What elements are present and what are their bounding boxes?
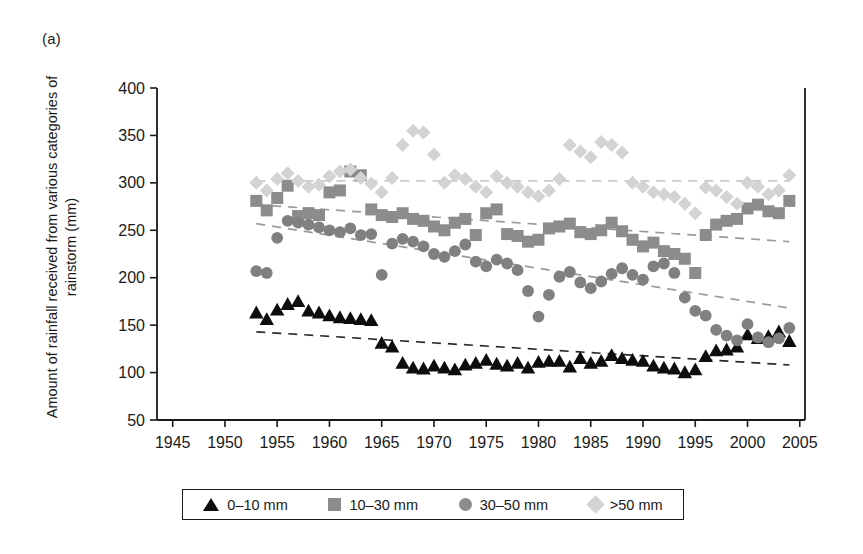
square-marker bbox=[459, 213, 471, 225]
square-marker bbox=[532, 234, 544, 246]
circle-marker bbox=[522, 285, 534, 297]
circle-marker bbox=[261, 267, 273, 279]
circle-marker bbox=[303, 219, 315, 231]
triangle-marker bbox=[500, 359, 514, 372]
circle-marker bbox=[376, 269, 388, 281]
legend-entry-2[interactable]: 30–50 mm bbox=[459, 497, 549, 513]
legend-entry-3[interactable]: >50 mm bbox=[589, 497, 663, 513]
triangle-marker bbox=[469, 356, 483, 369]
triangle-marker bbox=[312, 306, 326, 319]
diamond-marker bbox=[678, 197, 692, 211]
square-marker bbox=[428, 220, 440, 232]
square-marker bbox=[407, 213, 419, 225]
triangle-marker bbox=[375, 336, 389, 349]
legend: 0–10 mm 10–30 mm 30–50 mm >50 mm bbox=[182, 489, 684, 520]
triangle-marker bbox=[395, 356, 409, 369]
square-marker bbox=[700, 229, 712, 241]
legend-label: 30–50 mm bbox=[480, 497, 549, 513]
square-marker bbox=[386, 211, 398, 223]
triangle-marker bbox=[573, 351, 587, 364]
square-marker bbox=[627, 234, 639, 246]
circle-marker bbox=[553, 271, 565, 283]
legend-label: >50 mm bbox=[610, 497, 663, 513]
circle-marker bbox=[282, 215, 294, 227]
circle-marker bbox=[501, 258, 513, 270]
legend-label: 0–10 mm bbox=[227, 497, 287, 513]
square-marker bbox=[721, 215, 733, 227]
circle-marker bbox=[783, 322, 795, 334]
square-marker bbox=[512, 230, 524, 242]
y-tick-label: 250 bbox=[118, 222, 145, 239]
diamond-marker bbox=[375, 185, 389, 199]
diamond-marker bbox=[688, 206, 702, 220]
triangle-marker bbox=[615, 351, 629, 364]
diamond-marker bbox=[699, 181, 713, 195]
circle-marker bbox=[574, 277, 586, 289]
circle-marker bbox=[595, 276, 607, 288]
circle-marker bbox=[292, 217, 304, 229]
circle-marker bbox=[334, 226, 346, 238]
square-marker bbox=[303, 207, 315, 219]
diamond-marker bbox=[427, 147, 441, 161]
triangle-marker bbox=[552, 354, 566, 367]
y-tick-label: 100 bbox=[118, 364, 145, 381]
circle-marker bbox=[721, 330, 733, 342]
diamond-marker bbox=[657, 187, 671, 201]
circle-marker bbox=[564, 266, 576, 278]
diamond-marker bbox=[615, 146, 629, 160]
x-tick-label: 1990 bbox=[625, 434, 661, 451]
square-marker bbox=[334, 184, 346, 196]
circle-marker-icon bbox=[459, 498, 472, 511]
legend-entry-0[interactable]: 0–10 mm bbox=[203, 497, 287, 513]
circle-marker bbox=[324, 224, 336, 236]
square-marker bbox=[449, 217, 461, 229]
circle-marker bbox=[386, 238, 398, 250]
y-tick-label: 350 bbox=[118, 127, 145, 144]
diamond-marker bbox=[552, 172, 566, 186]
triangle-marker bbox=[510, 356, 524, 369]
square-marker bbox=[261, 204, 273, 216]
figure-container: (a) Amount of rainfall received from var… bbox=[0, 0, 863, 554]
circle-marker bbox=[480, 260, 492, 272]
triangle-marker-icon bbox=[203, 498, 219, 511]
circle-marker bbox=[627, 269, 639, 281]
y-tick-label: 300 bbox=[118, 174, 145, 191]
diamond-marker bbox=[417, 126, 431, 140]
x-tick-label: 2000 bbox=[730, 434, 766, 451]
y-tick-label: 400 bbox=[118, 80, 145, 97]
triangle-marker bbox=[427, 359, 441, 372]
x-tick-label: 1950 bbox=[207, 434, 243, 451]
diamond-marker bbox=[385, 171, 399, 185]
square-marker bbox=[397, 207, 409, 219]
square-marker bbox=[501, 228, 513, 240]
trendline-layer bbox=[256, 181, 789, 365]
circle-marker bbox=[668, 267, 680, 279]
square-marker bbox=[595, 224, 607, 236]
x-tick-label: 1965 bbox=[364, 434, 400, 451]
diamond-marker bbox=[667, 190, 681, 204]
circle-marker bbox=[710, 324, 722, 336]
diamond-marker bbox=[396, 138, 410, 152]
diamond-marker-icon bbox=[586, 495, 604, 513]
diamond-marker bbox=[605, 138, 619, 152]
legend-label: 10–30 mm bbox=[349, 497, 418, 513]
diamond-marker bbox=[406, 124, 420, 138]
circle-marker bbox=[491, 254, 503, 266]
circle-marker bbox=[606, 268, 618, 280]
square-marker bbox=[783, 195, 795, 207]
diamond-marker bbox=[563, 138, 577, 152]
square-marker bbox=[606, 217, 618, 229]
square-marker bbox=[731, 213, 743, 225]
scatter-plot: 5010015020025030035040019451950195519601… bbox=[0, 0, 863, 554]
x-tick-label: 1980 bbox=[521, 434, 557, 451]
square-marker bbox=[574, 226, 586, 238]
legend-entry-1[interactable]: 10–30 mm bbox=[328, 497, 418, 513]
circle-marker bbox=[585, 282, 597, 294]
square-marker bbox=[271, 192, 283, 204]
circle-marker bbox=[648, 260, 660, 272]
tick-labels-layer: 5010015020025030035040019451950195519601… bbox=[118, 80, 817, 452]
circle-marker bbox=[742, 318, 754, 330]
square-marker bbox=[710, 219, 722, 231]
diamond-marker bbox=[437, 176, 451, 190]
square-marker bbox=[313, 209, 325, 221]
